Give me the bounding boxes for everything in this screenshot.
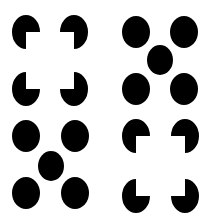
dot-bottom-left [12, 177, 40, 209]
dot-top-left [12, 120, 40, 152]
dot-bottom-right [170, 73, 198, 105]
dot-top-right [61, 120, 89, 152]
kanizsa-figure [0, 0, 211, 221]
dot-top-left [122, 16, 150, 48]
dot-bottom-left [122, 73, 150, 105]
dot-center [38, 151, 64, 181]
dot-bottom-right [61, 177, 89, 209]
dot-center [147, 45, 173, 75]
dot-top-right [170, 16, 198, 48]
